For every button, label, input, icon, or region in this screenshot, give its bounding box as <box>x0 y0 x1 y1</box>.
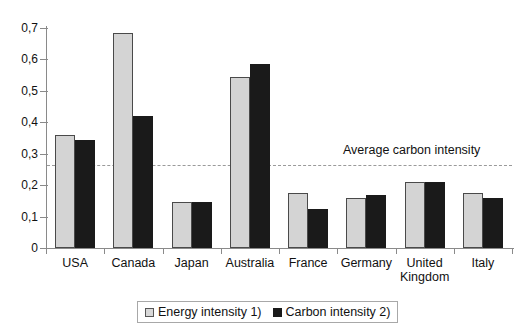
y-axis-tick-label: 0,3 <box>4 148 38 160</box>
bar-group <box>337 28 395 248</box>
bar-group <box>163 28 221 248</box>
energy-swatch-icon <box>145 308 154 317</box>
x-axis-tick <box>396 248 397 254</box>
x-axis-tick <box>104 248 105 254</box>
x-axis-tick <box>163 248 164 254</box>
bar-energy-intensity[interactable] <box>346 198 366 248</box>
x-axis-tick <box>279 248 280 254</box>
x-axis-label-line: Italy <box>454 256 512 270</box>
x-axis-tick <box>46 248 47 254</box>
x-axis-tick <box>337 248 338 254</box>
bar-energy-intensity[interactable] <box>405 182 425 248</box>
x-axis-tick <box>454 248 455 254</box>
legend-item-energy-intensity[interactable]: Energy intensity 1) <box>145 306 262 319</box>
legend-label-energy-intensity: Energy intensity 1) <box>158 306 262 319</box>
average-carbon-intensity-label: Average carbon intensity <box>343 143 480 157</box>
plot-area <box>46 28 512 248</box>
y-axis-tick-label-wrap: 0,1 <box>0 211 38 223</box>
bar-carbon-intensity[interactable] <box>366 195 386 248</box>
y-axis-tick-label-wrap: 0,3 <box>0 148 38 160</box>
carbon-swatch-icon <box>273 308 282 317</box>
x-axis-tick <box>512 248 513 254</box>
chart-legend: Energy intensity 1) Carbon intensity 2) <box>137 301 398 323</box>
bar-group <box>46 28 104 248</box>
y-axis-tick-label: 0,7 <box>4 22 38 34</box>
bar-energy-intensity[interactable] <box>113 33 133 248</box>
x-axis-label-line: Canada <box>104 256 162 270</box>
bar-carbon-intensity[interactable] <box>425 182 445 248</box>
bar-carbon-intensity[interactable] <box>75 140 95 248</box>
bar-energy-intensity[interactable] <box>288 193 308 248</box>
legend-label-carbon-intensity: Carbon intensity 2) <box>286 306 391 319</box>
x-axis-label-line: Australia <box>221 256 279 270</box>
x-axis-label-australia: Australia <box>221 256 279 270</box>
x-axis-label-line: France <box>279 256 337 270</box>
bar-energy-intensity[interactable] <box>230 77 250 248</box>
x-axis-label-canada: Canada <box>104 256 162 270</box>
x-axis-tick <box>221 248 222 254</box>
y-axis-tick-label-wrap: 0,4 <box>0 116 38 128</box>
bar-carbon-intensity[interactable] <box>133 116 153 248</box>
y-axis-tick-label: 0,4 <box>4 116 38 128</box>
x-axis-label-france: France <box>279 256 337 270</box>
x-axis-label-line: Kingdom <box>396 270 454 284</box>
x-axis-label-usa: USA <box>46 256 104 270</box>
y-axis-tick-label-wrap: 0 <box>0 242 38 254</box>
legend-item-carbon-intensity[interactable]: Carbon intensity 2) <box>273 306 391 319</box>
y-axis-tick-label-wrap: 0,7 <box>0 22 38 34</box>
bar-carbon-intensity[interactable] <box>250 64 270 248</box>
y-axis-tick-label: 0,1 <box>4 211 38 223</box>
bar-carbon-intensity[interactable] <box>192 202 212 248</box>
bar-chart: 00,10,20,30,40,50,60,7 Average carbon in… <box>0 0 520 329</box>
bar-group <box>104 28 162 248</box>
bar-carbon-intensity[interactable] <box>308 209 328 248</box>
y-axis-tick-label-wrap: 0,5 <box>0 85 38 97</box>
bar-group <box>454 28 512 248</box>
y-axis-tick-label: 0,5 <box>4 85 38 97</box>
x-axis-label-line: USA <box>46 256 104 270</box>
bar-energy-intensity[interactable] <box>463 193 483 248</box>
x-axis-label-line: Germany <box>337 256 395 270</box>
x-axis-label-japan: Japan <box>163 256 221 270</box>
bar-energy-intensity[interactable] <box>172 202 192 248</box>
x-axis-label-italy: Italy <box>454 256 512 270</box>
bar-energy-intensity[interactable] <box>55 135 75 248</box>
y-axis-tick-label: 0 <box>4 242 38 254</box>
x-axis-label-line: United <box>396 256 454 270</box>
y-axis-tick-label: 0,6 <box>4 53 38 65</box>
y-axis-tick-label-wrap: 0,6 <box>0 53 38 65</box>
x-axis-label-line: Japan <box>163 256 221 270</box>
bar-carbon-intensity[interactable] <box>483 198 503 248</box>
bar-group <box>221 28 279 248</box>
x-axis-label-germany: Germany <box>337 256 395 270</box>
bar-group <box>279 28 337 248</box>
y-axis-tick-label: 0,2 <box>4 179 38 191</box>
bar-group <box>396 28 454 248</box>
y-axis-tick-label-wrap: 0,2 <box>0 179 38 191</box>
x-axis-label-united-kingdom: UnitedKingdom <box>396 256 454 284</box>
